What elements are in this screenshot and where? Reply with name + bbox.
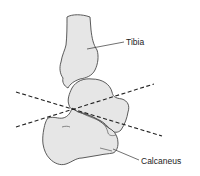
calcaneus-leader-line: [113, 149, 139, 160]
ankle-diagram: [0, 0, 200, 176]
tibia-bone: [60, 15, 98, 88]
calcaneus-label: Calcaneus: [141, 156, 181, 166]
tibia-label: Tibia: [126, 37, 144, 47]
